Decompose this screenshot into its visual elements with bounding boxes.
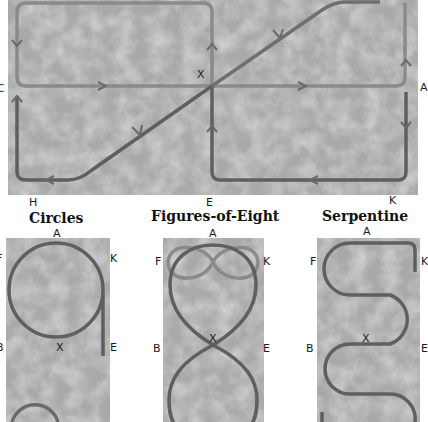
- serpentine-label-a: A: [363, 226, 371, 237]
- eight-label-f: F: [155, 256, 161, 267]
- serpentine-panel: [317, 238, 420, 422]
- eight-label-b: B: [153, 343, 161, 354]
- figures-of-eight-panel: [163, 238, 264, 422]
- label-e: E: [206, 197, 213, 208]
- eight-label-k: K: [263, 256, 270, 267]
- serpentine-label-b: B: [306, 343, 314, 354]
- eight-label-a: A: [209, 228, 217, 239]
- title-figures-of-eight: Figures-of-Eight: [151, 209, 279, 223]
- title-circles: Circles: [29, 211, 83, 225]
- eight-label-x: X: [209, 333, 217, 344]
- label-k: K: [389, 195, 396, 206]
- label-a: A: [420, 82, 428, 93]
- circles-label-f: F: [0, 253, 2, 264]
- serpentine-label-e: E: [421, 343, 428, 354]
- serpentine-label-f: F: [310, 256, 316, 267]
- serpentine-label-k: K: [421, 256, 428, 267]
- circles-panel: [6, 238, 110, 422]
- circles-label-b: B: [0, 342, 4, 353]
- circles-label-k: K: [110, 253, 117, 264]
- label-x: X: [197, 69, 205, 80]
- eight-label-e: E: [263, 343, 270, 354]
- circles-label-a: A: [53, 228, 61, 239]
- circles-label-e: E: [110, 342, 117, 353]
- serpentine-label-x: X: [362, 333, 370, 344]
- title-serpentine: Serpentine: [322, 209, 408, 223]
- label-c: C: [0, 83, 5, 94]
- circles-label-x: X: [56, 342, 64, 353]
- label-h: H: [29, 197, 37, 208]
- top-panel: [8, 0, 418, 195]
